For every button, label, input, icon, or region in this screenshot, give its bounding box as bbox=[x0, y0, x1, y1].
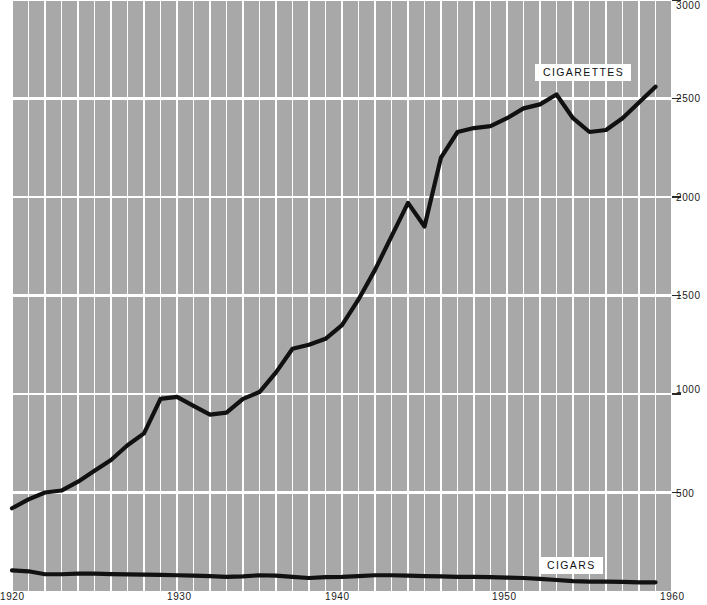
x-tick-label-1920: 1920 bbox=[0, 591, 25, 602]
y-tick-label-1500: 1500 bbox=[676, 290, 701, 301]
y-tick-label-2000: 2000 bbox=[676, 192, 701, 203]
chart-container: 3000 2500 2000 1500 1000 500 1920 1930 1… bbox=[0, 0, 707, 605]
line-chart-plot bbox=[0, 0, 707, 605]
series-label-cigarettes: CIGARETTES bbox=[535, 64, 631, 81]
x-tick-label-1950: 1950 bbox=[492, 591, 517, 602]
y-tick-label-1000: 1000 bbox=[676, 384, 701, 395]
y-tick-label-500: 500 bbox=[676, 488, 695, 499]
x-tick-label-1930: 1930 bbox=[167, 591, 192, 602]
y-tick-label-2500: 2500 bbox=[676, 93, 701, 104]
x-tick-label-1960: 1960 bbox=[660, 591, 685, 602]
x-tick-label-1940: 1940 bbox=[325, 591, 350, 602]
y-tick-marks bbox=[672, 0, 681, 493]
y-tick-label-3000: 3000 bbox=[676, 0, 701, 11]
series-label-cigars: CIGARS bbox=[539, 557, 603, 574]
